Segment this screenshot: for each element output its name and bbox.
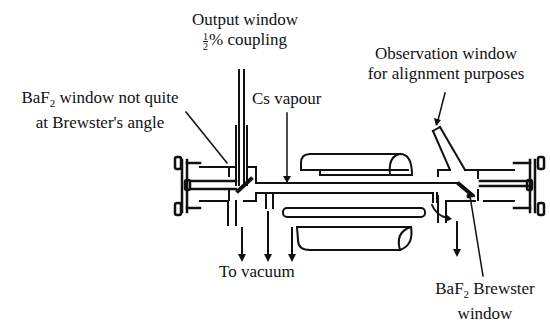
main-bore-tube (256, 183, 474, 196)
right-mirror-mount (480, 157, 544, 215)
laser-cell-diagram: Output window 1 2 % coupling BaF2 window… (0, 0, 550, 326)
to-vacuum-label: To vacuum (219, 262, 295, 282)
left-mirror-mount (175, 157, 236, 215)
output-window-line2: 1 2 % coupling (180, 30, 310, 51)
heater-rod (283, 208, 425, 217)
observation-window-label: Observation window for alignment purpose… (348, 44, 544, 84)
baf2-brewster-window-label: BaF2 Brewster window (420, 279, 550, 324)
right-housing (438, 170, 514, 222)
oven-bottom (297, 227, 412, 250)
observation-window-tube (433, 127, 465, 170)
output-window-tube (236, 70, 247, 185)
cs-vapour-label: Cs vapour (252, 89, 321, 109)
right-brewster-window (459, 184, 472, 195)
curved-flow-arrow (432, 205, 447, 218)
output-window-label: Output window 1 2 % coupling (180, 10, 310, 51)
vacuum-ports (266, 193, 437, 208)
coupling-fraction: 1 2 (203, 32, 208, 51)
output-window-line1: Output window (180, 10, 310, 30)
oven-top (301, 154, 412, 175)
baf2-window-label: BaF2 window not quite at Brewster's angl… (2, 88, 198, 133)
